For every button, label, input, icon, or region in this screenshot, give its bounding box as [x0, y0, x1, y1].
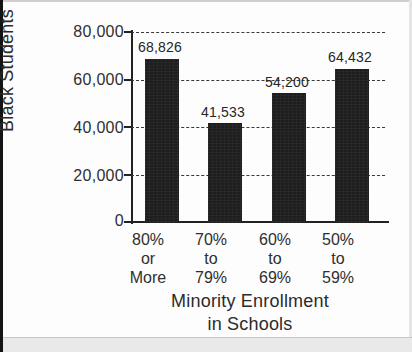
- y-tick-mark-60000: [124, 79, 132, 81]
- y-tick-mark-80000: [124, 31, 132, 33]
- bar-70-to-79[interactable]: [208, 123, 242, 222]
- plot-area: 68,826 41,533 54,200 64,432: [131, 32, 385, 222]
- y-tick-mark-20000: [124, 174, 132, 176]
- x-category-label-1: 80% or More: [113, 230, 183, 287]
- x-axis-title: Minority Enrollment in Schools: [100, 290, 400, 336]
- bar-value-label-4: 64,432: [312, 49, 388, 65]
- scan-border-bottom-rule: [3, 337, 412, 338]
- scan-border-bottom: [3, 337, 412, 352]
- gridline-80000: [131, 32, 385, 33]
- y-tick-label-20000: 20,000: [14, 167, 124, 185]
- chart-figure: Black Students 80,000 60,000 40,000 20,0…: [0, 0, 412, 352]
- y-tick-label-0: 0: [14, 212, 124, 230]
- bar-50-to-59[interactable]: [335, 69, 369, 222]
- bar-60-to-69[interactable]: [272, 93, 306, 222]
- scan-border-top: [3, 0, 412, 2]
- x-category-label-4: 50% to 59%: [303, 230, 373, 287]
- x-category-label-2: 70% to 79%: [176, 230, 246, 287]
- bar-value-label-3: 54,200: [249, 74, 325, 90]
- y-tick-label-40000: 40,000: [14, 119, 124, 137]
- y-tick-mark-40000: [124, 126, 132, 128]
- y-tick-label-60000: 60,000: [14, 71, 124, 89]
- x-category-label-3: 60% to 69%: [240, 230, 310, 287]
- bar-value-label-2: 41,533: [185, 104, 261, 120]
- y-tick-mark-0: [124, 221, 132, 223]
- bar-80-percent-or-more[interactable]: [145, 59, 179, 223]
- bar-value-label-1: 68,826: [122, 39, 198, 55]
- y-tick-label-80000: 80,000: [14, 23, 124, 41]
